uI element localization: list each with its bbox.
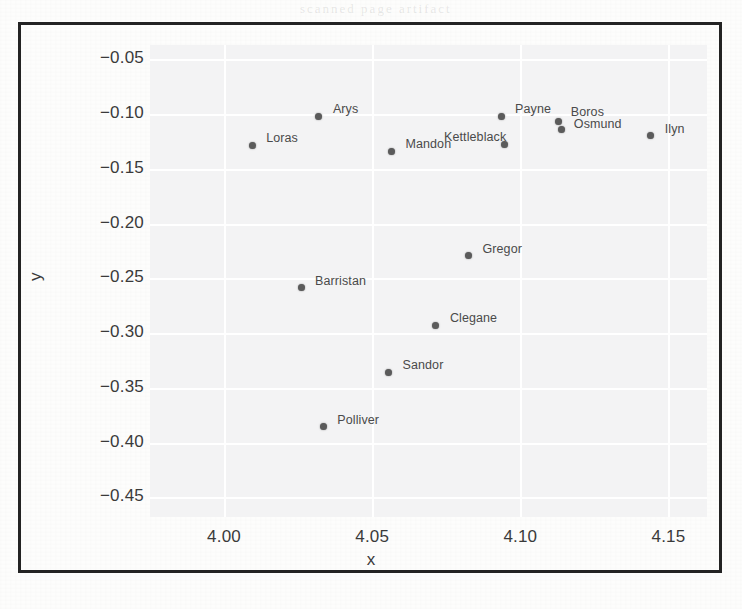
gridline-horizontal [150,443,707,445]
data-point[interactable] [647,132,654,139]
gridline-horizontal [150,333,707,335]
y-tick-label: −0.30 [54,322,144,342]
data-point[interactable] [385,369,392,376]
y-tick-label: −0.20 [54,213,144,233]
gridline-horizontal [150,497,707,499]
data-point-label: Clegane [450,311,497,325]
x-tick-label: 4.05 [327,527,417,547]
y-tick-label: −0.45 [54,486,144,506]
scatter-plot: −0.05−0.10−0.15−0.20−0.25−0.30−0.35−0.40… [0,0,742,609]
gridline-vertical [372,45,374,517]
y-tick-label: −0.40 [54,432,144,452]
gridline-vertical [668,45,670,517]
x-tick-label: 4.10 [475,527,565,547]
y-tick-label: −0.25 [54,267,144,287]
data-point-label: Polliver [337,413,379,427]
gridline-horizontal [150,224,707,226]
y-tick-label: −0.15 [54,158,144,178]
gridline-horizontal [150,114,707,116]
data-point-label: Sandor [403,358,444,372]
data-point[interactable] [388,148,395,155]
y-tick-label: −0.35 [54,377,144,397]
y-axis-title: y [26,273,46,282]
data-point-label: Ilyn [665,122,685,136]
gridline-horizontal [150,278,707,280]
data-point-label: Kettleblack [444,130,506,144]
panel-background-wash [150,45,707,517]
data-point-label: Osmund [574,117,622,131]
gridline-vertical [224,45,226,517]
data-point-label: Arys [333,102,358,116]
gridline-horizontal [150,169,707,171]
data-point-label: Loras [266,131,298,145]
x-tick-label: 4.15 [623,527,713,547]
gridline-horizontal [150,59,707,61]
data-point[interactable] [320,423,327,430]
data-point[interactable] [249,142,256,149]
data-point-label: Payne [515,102,551,116]
x-tick-label: 4.00 [179,527,269,547]
plot-panel [150,45,707,517]
y-tick-label: −0.10 [54,103,144,123]
gridline-horizontal [150,388,707,390]
scanned-page: of the world we come scanned page artifa… [0,0,742,609]
data-point-label: Gregor [482,242,522,256]
data-point-label: Barristan [315,274,366,288]
y-tick-label: −0.05 [54,48,144,68]
data-point[interactable] [498,113,505,120]
data-point[interactable] [298,284,305,291]
x-axis-title: x [0,550,742,570]
